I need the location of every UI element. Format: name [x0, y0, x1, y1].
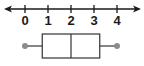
max-dot [114, 43, 120, 49]
box-and-whisker [22, 34, 120, 58]
tick-label-2: 2 [65, 14, 77, 27]
tick-label-4: 4 [111, 14, 123, 27]
tick-label-1: 1 [42, 14, 54, 27]
box-plot-svg [0, 0, 144, 66]
min-dot [22, 43, 28, 49]
number-line [4, 5, 141, 13]
tick-label-3: 3 [88, 14, 100, 27]
tick-label-0: 0 [19, 14, 31, 27]
